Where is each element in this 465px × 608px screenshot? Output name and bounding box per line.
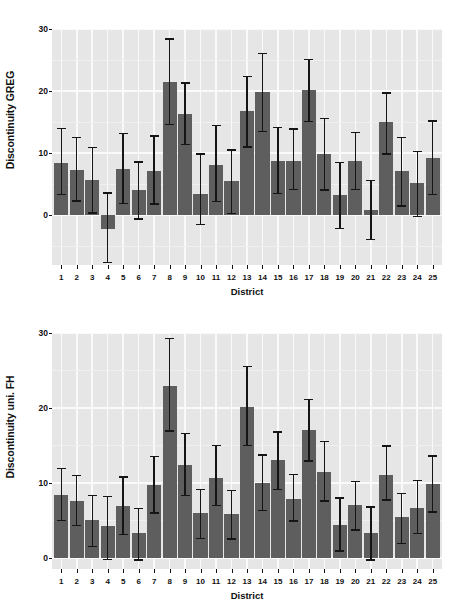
error-cap-lower bbox=[181, 495, 190, 496]
x-axis-tick-mark bbox=[216, 569, 217, 573]
y-axis-ticks-fh: 0102030 bbox=[14, 304, 48, 608]
x-axis-tick-label: 13 bbox=[243, 273, 252, 282]
x-axis-tick-label: 17 bbox=[304, 577, 313, 586]
error-cap-upper bbox=[103, 192, 112, 193]
x-axis-tick-mark bbox=[417, 569, 418, 573]
x-axis-tick-label: 23 bbox=[397, 577, 406, 586]
x-axis-tick-label: 7 bbox=[152, 273, 156, 282]
error-cap-upper bbox=[57, 128, 66, 129]
error-cap-lower bbox=[119, 534, 128, 535]
x-axis-tick-label: 16 bbox=[289, 577, 298, 586]
x-axis-tick-label: 23 bbox=[397, 273, 406, 282]
error-cap-lower bbox=[57, 520, 66, 521]
y-axis-tick-label: 20 bbox=[20, 403, 48, 413]
gridline-vertical bbox=[339, 29, 341, 265]
x-axis-tick-label: 1 bbox=[59, 273, 63, 282]
error-bar bbox=[200, 490, 201, 539]
error-bar bbox=[324, 442, 325, 501]
gridline-horizontal-minor bbox=[52, 246, 442, 247]
error-cap-lower bbox=[289, 520, 298, 521]
error-cap-lower bbox=[212, 505, 221, 506]
error-bar bbox=[370, 181, 371, 240]
error-bar bbox=[277, 128, 278, 194]
error-bar bbox=[355, 481, 356, 530]
x-axis-tick-label: 24 bbox=[413, 577, 422, 586]
error-cap-upper bbox=[181, 433, 190, 434]
x-axis-tick-label: 5 bbox=[121, 577, 125, 586]
x-axis-tick-label: 25 bbox=[428, 273, 437, 282]
x-axis-tick-mark bbox=[340, 265, 341, 269]
x-axis-tick-mark bbox=[92, 569, 93, 573]
error-bar bbox=[107, 496, 108, 559]
error-cap-lower bbox=[196, 538, 205, 539]
error-cap-upper bbox=[304, 399, 313, 400]
error-cap-lower bbox=[119, 203, 128, 204]
x-axis-tick-mark bbox=[309, 265, 310, 269]
error-bar bbox=[231, 490, 232, 539]
error-cap-lower bbox=[351, 189, 360, 190]
gridline-horizontal bbox=[52, 333, 442, 334]
x-axis-tick-mark bbox=[309, 569, 310, 573]
error-cap-lower bbox=[150, 512, 159, 513]
x-axis-tick-mark bbox=[247, 265, 248, 269]
x-axis-tick-mark bbox=[386, 265, 387, 269]
x-axis-tick-mark bbox=[170, 265, 171, 269]
error-bar bbox=[92, 496, 93, 547]
error-bar bbox=[92, 148, 93, 213]
error-cap-lower bbox=[335, 228, 344, 229]
error-cap-upper bbox=[413, 151, 422, 152]
error-cap-lower bbox=[103, 559, 112, 560]
x-axis-tick-label: 3 bbox=[90, 273, 94, 282]
x-axis-tick-mark bbox=[355, 265, 356, 269]
x-axis-tick-label: 1 bbox=[59, 577, 63, 586]
error-bar bbox=[184, 83, 185, 144]
error-cap-upper bbox=[289, 474, 298, 475]
x-axis-tick-label: 6 bbox=[136, 577, 140, 586]
error-cap-lower bbox=[320, 500, 329, 501]
x-axis-tick-label: 2 bbox=[75, 273, 79, 282]
x-axis-tick-mark bbox=[61, 265, 62, 269]
gridline-vertical bbox=[200, 29, 202, 265]
x-axis-tick-mark bbox=[324, 569, 325, 573]
x-axis-tick-label: 15 bbox=[273, 577, 282, 586]
x-axis-tick-mark bbox=[92, 265, 93, 269]
error-cap-upper bbox=[88, 147, 97, 148]
y-axis-tick-label: 10 bbox=[20, 478, 48, 488]
x-axis-tick-mark bbox=[232, 569, 233, 573]
x-axis-tick-mark bbox=[123, 569, 124, 573]
x-axis-tick-mark bbox=[201, 569, 202, 573]
error-cap-upper bbox=[119, 476, 128, 477]
error-cap-upper bbox=[335, 162, 344, 163]
error-bar bbox=[169, 39, 170, 125]
x-axis-tick-mark bbox=[324, 265, 325, 269]
x-axis-tick-mark bbox=[278, 265, 279, 269]
error-cap-upper bbox=[57, 468, 66, 469]
x-axis-tick-label: 15 bbox=[273, 273, 282, 282]
x-axis-tick-label: 21 bbox=[366, 577, 375, 586]
error-cap-upper bbox=[227, 149, 236, 150]
error-cap-upper bbox=[227, 490, 236, 491]
error-cap-lower bbox=[366, 559, 375, 560]
error-cap-upper bbox=[351, 481, 360, 482]
error-cap-lower bbox=[243, 146, 252, 147]
x-axis-tick-label: 6 bbox=[136, 273, 140, 282]
error-cap-lower bbox=[366, 239, 375, 240]
error-cap-lower bbox=[227, 213, 236, 214]
error-bar bbox=[432, 121, 433, 194]
error-cap-upper bbox=[72, 137, 81, 138]
error-bar bbox=[386, 446, 387, 500]
x-axis-tick-label: 22 bbox=[382, 577, 391, 586]
error-cap-upper bbox=[258, 454, 267, 455]
error-cap-upper bbox=[196, 489, 205, 490]
error-bar bbox=[231, 150, 232, 213]
error-bar bbox=[122, 477, 123, 535]
error-bar bbox=[169, 338, 170, 431]
error-cap-lower bbox=[335, 550, 344, 551]
error-cap-lower bbox=[304, 460, 313, 461]
x-axis-tick-label: 20 bbox=[351, 577, 360, 586]
error-cap-upper bbox=[134, 161, 143, 162]
error-cap-upper bbox=[88, 495, 97, 496]
y-axis-tick-label: 30 bbox=[20, 328, 48, 338]
x-axis-tick-mark bbox=[402, 265, 403, 269]
error-bar bbox=[355, 133, 356, 190]
